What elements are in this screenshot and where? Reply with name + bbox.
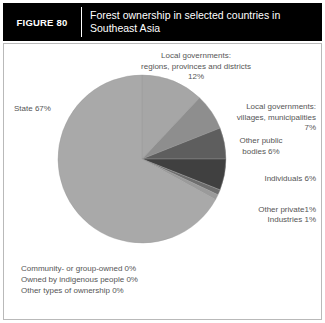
figure-title-cell: Forest ownership in selected countries i… [82, 3, 322, 41]
pie-label-local-governments-regions: Local governments: regions, provinces an… [116, 51, 276, 83]
footnote-line: Other types of ownership 0% [21, 285, 251, 296]
pie-label-local-governments-villages: Local governments: villages, municipalit… [166, 102, 316, 134]
figure-container: FIGURE 80 Forest ownership in selected c… [0, 0, 325, 323]
figure-number-cell: FIGURE 80 [3, 3, 81, 41]
figure-body-panel: Local governments: regions, provinces an… [3, 43, 322, 320]
footnote-line: Owned by indigenous people 0% [21, 274, 251, 285]
footnote-line: Community- or group-owned 0% [21, 263, 251, 274]
pie-label-individuals: Individuals 6% [206, 174, 316, 185]
pie-label-other-public-bodies: Other public bodies 6% [206, 136, 316, 157]
zero-share-footnotes: Community- or group-owned 0%Owned by ind… [21, 263, 251, 296]
figure-header: FIGURE 80 Forest ownership in selected c… [3, 3, 322, 41]
page-title: Forest ownership in selected countries i… [90, 9, 316, 35]
figure-number-label: FIGURE 80 [17, 17, 68, 28]
pie-label-other-private: Other private1% [196, 205, 316, 216]
pie-label-industries: Industries 1% [196, 215, 316, 226]
pie-label-state: State 67% [14, 104, 84, 115]
